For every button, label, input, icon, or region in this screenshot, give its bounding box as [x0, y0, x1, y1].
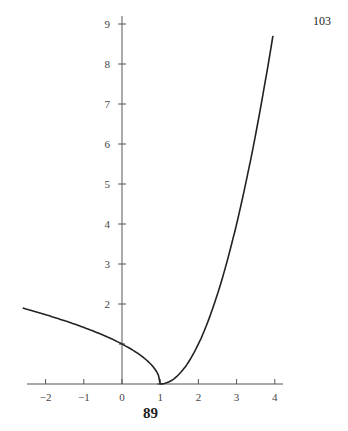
y-tick-label: 6 — [105, 138, 111, 150]
y-tick-label: 3 — [105, 258, 111, 270]
x-tick-label: 4 — [272, 391, 278, 403]
axes — [27, 16, 283, 384]
x-ticks: −2−101234 — [40, 379, 278, 403]
y-tick-label: 4 — [105, 218, 111, 230]
right-branch-curve — [160, 36, 273, 384]
y-ticks: 23456789 — [105, 18, 127, 310]
x-tick-label: −1 — [78, 391, 90, 403]
x-tick-label: 3 — [234, 391, 240, 403]
page-number: 103 — [313, 14, 331, 29]
y-tick-label: 8 — [105, 58, 111, 70]
x-tick-label: 1 — [157, 391, 163, 403]
y-tick-label: 9 — [105, 18, 111, 30]
left-branch-curve — [23, 308, 161, 384]
x-tick-label: −2 — [40, 391, 52, 403]
x-tick-label: 2 — [196, 391, 202, 403]
figure-label: 89 — [143, 405, 158, 422]
y-tick-label: 5 — [105, 178, 111, 190]
y-tick-label: 7 — [105, 98, 111, 110]
curves — [23, 36, 273, 384]
y-tick-label: 2 — [105, 298, 111, 310]
function-graph: −2−101234 23456789 — [0, 0, 348, 431]
x-tick-label: 0 — [119, 391, 125, 403]
